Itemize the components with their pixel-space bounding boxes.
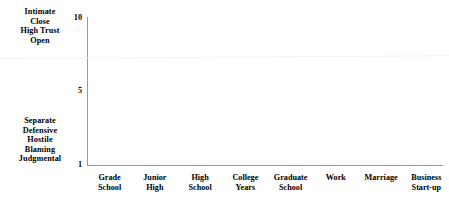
x-tick-graduate-school: Graduate School xyxy=(268,173,313,203)
x-tick-line: Start-up xyxy=(404,183,449,193)
x-tick-line: High xyxy=(178,173,223,183)
x-axis-tick-labels: Grade School Junior High High School Col… xyxy=(87,173,449,203)
anchor-line: Blaming xyxy=(0,145,80,155)
chart-container: Intimate Close High Trust Open Separate … xyxy=(0,0,449,205)
x-tick-line: School xyxy=(268,183,313,193)
y-axis-line xyxy=(87,17,88,166)
x-tick-work: Work xyxy=(313,173,358,203)
anchor-line: Open xyxy=(0,36,80,46)
x-tick-line: Years xyxy=(223,183,268,193)
x-tick-line: Grade xyxy=(87,173,132,183)
y-tick-label: 10 xyxy=(60,13,82,22)
x-axis-line xyxy=(87,165,443,166)
x-tick-line: Business xyxy=(404,173,449,183)
y-tick-1: 1 xyxy=(60,160,82,169)
x-tick-junior-high: Junior High xyxy=(132,173,177,203)
x-tick-line: Work xyxy=(313,173,358,183)
y-axis-low-anchor-label: Separate Defensive Hostile Blaming Judgm… xyxy=(0,116,80,164)
y-tick-5: 5 xyxy=(60,86,82,95)
x-tick-college-years: College Years xyxy=(223,173,268,203)
x-tick-business-start-up: Business Start-up xyxy=(404,173,449,203)
x-tick-line: College xyxy=(223,173,268,183)
anchor-line: High Trust xyxy=(0,26,80,36)
y-tick-label: 1 xyxy=(60,160,82,169)
x-tick-line: High xyxy=(132,183,177,193)
x-tick-grade-school: Grade School xyxy=(87,173,132,203)
scan-artifact-streak xyxy=(0,55,449,59)
x-tick-line: School xyxy=(87,183,132,193)
x-tick-high-school: High School xyxy=(178,173,223,203)
x-tick-marriage: Marriage xyxy=(359,173,404,203)
x-tick-line: Junior xyxy=(132,173,177,183)
anchor-line: Hostile xyxy=(0,135,80,145)
y-tick-10: 10 xyxy=(60,13,82,22)
anchor-line: Defensive xyxy=(0,126,80,136)
anchor-line: Separate xyxy=(0,116,80,126)
x-tick-line: Marriage xyxy=(359,173,404,183)
x-tick-line: Graduate xyxy=(268,173,313,183)
x-tick-line: School xyxy=(178,183,223,193)
y-tick-label: 5 xyxy=(60,86,82,95)
